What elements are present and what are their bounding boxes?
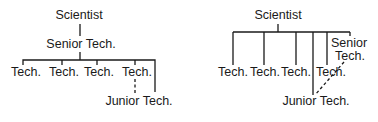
left-scientist-label: Scientist: [55, 8, 103, 22]
right-org-chart: Scientist Senior Tech. Tech. Tech. Tech.…: [218, 8, 367, 108]
right-tech-2: Tech.: [250, 65, 280, 79]
left-tech-4: Tech.: [122, 65, 152, 79]
right-tech-3: Tech.: [281, 65, 311, 79]
left-tech-2: Tech.: [49, 65, 79, 79]
left-tech-1: Tech.: [11, 65, 41, 79]
left-junior-tech-label: Junior Tech.: [105, 94, 172, 108]
left-tech-3: Tech.: [84, 65, 114, 79]
right-tech-4: Tech.: [316, 65, 346, 79]
right-tech-1: Tech.: [218, 65, 248, 79]
org-diagrams: Scientist Senior Tech. Tech. Tech. Tech.…: [0, 0, 378, 122]
left-org-chart: Scientist Senior Tech. Tech. Tech. Tech.…: [11, 8, 173, 108]
right-senior-label-line1: Senior: [331, 36, 367, 50]
left-senior-tech-label: Senior Tech.: [46, 37, 115, 51]
right-senior-label-line2: Tech.: [335, 49, 365, 63]
right-junior-tech-label: Junior Tech.: [282, 94, 349, 108]
right-scientist-label: Scientist: [254, 8, 302, 22]
